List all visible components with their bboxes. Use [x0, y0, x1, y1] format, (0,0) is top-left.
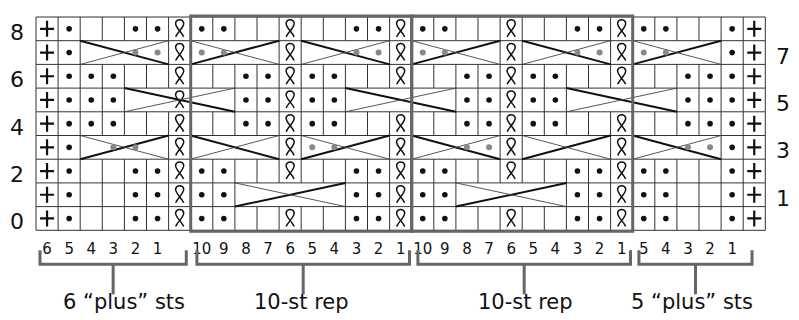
purl-icon — [729, 216, 735, 222]
edge-stitch-icon — [747, 163, 761, 179]
stitch-number: 3 — [109, 240, 119, 258]
purl-icon — [553, 97, 559, 103]
purl-icon — [309, 97, 315, 103]
stitch-number: 2 — [705, 240, 715, 258]
purl-dot-gray-icon — [331, 144, 337, 150]
purl-icon — [221, 168, 227, 174]
purl-icon — [553, 73, 559, 79]
twisted-stitch-icon — [176, 162, 184, 179]
row-label-0: 0 — [10, 211, 24, 233]
purl-dot-gray-icon — [420, 50, 426, 56]
twisted-stitch-icon — [397, 138, 405, 155]
purl-icon — [66, 216, 72, 222]
purl-dot-gray-icon — [685, 144, 691, 150]
purl-icon — [155, 216, 161, 222]
purl-icon — [332, 73, 338, 79]
twisted-stitch-icon — [176, 138, 184, 155]
purl-icon — [707, 121, 713, 127]
purl-icon — [729, 145, 735, 151]
purl-icon — [199, 216, 205, 222]
row-label-8: 8 — [10, 22, 24, 44]
purl-icon — [309, 73, 315, 79]
purl-dot-gray-icon — [663, 50, 669, 56]
purl-icon — [420, 216, 426, 222]
purl-icon — [199, 192, 205, 198]
stitch-number: 9 — [219, 240, 229, 258]
purl-dot-gray-icon — [464, 144, 470, 150]
twisted-stitch-icon — [176, 115, 184, 132]
purl-icon — [66, 26, 72, 32]
purl-icon — [354, 216, 360, 222]
purl-icon — [111, 121, 117, 127]
purl-icon — [575, 26, 581, 32]
twisted-stitch-icon — [397, 67, 405, 84]
stitch-number: 1 — [153, 240, 163, 258]
purl-icon — [486, 97, 492, 103]
twisted-stitch-icon — [507, 67, 515, 84]
purl-dot-gray-icon — [309, 144, 315, 150]
stitch-number: 1 — [617, 240, 627, 258]
purl-icon — [66, 192, 72, 198]
stitch-number: 2 — [595, 240, 605, 258]
purl-icon — [243, 121, 249, 127]
purl-icon — [376, 192, 382, 198]
stitch-number: 3 — [573, 240, 583, 258]
stitch-number: 2 — [374, 240, 384, 258]
twisted-stitch-icon — [286, 20, 294, 37]
edge-stitch-icon — [747, 187, 761, 203]
purl-icon — [597, 216, 603, 222]
stitch-number: 6 — [42, 240, 52, 258]
purl-icon — [376, 168, 382, 174]
edge-stitch-icon — [40, 139, 54, 155]
purl-icon — [221, 26, 227, 32]
twisted-stitch-icon — [507, 20, 515, 37]
twisted-stitch-icon — [286, 138, 294, 155]
stitch-number: 1 — [727, 240, 737, 258]
purl-icon — [376, 26, 382, 32]
purl-icon — [464, 121, 470, 127]
twisted-stitch-icon — [286, 91, 294, 108]
twisted-stitch-icon — [507, 115, 515, 132]
caption-right-plus: 5 “plus” sts — [631, 290, 753, 314]
purl-dot-gray-icon — [376, 50, 382, 56]
stitch-number: 4 — [86, 240, 96, 258]
purl-dot-gray-icon — [199, 50, 205, 56]
twisted-stitch-icon — [507, 209, 515, 226]
purl-icon — [663, 216, 669, 222]
edge-stitch-icon — [40, 163, 54, 179]
purl-icon — [354, 168, 360, 174]
twisted-stitch-icon — [507, 138, 515, 155]
purl-icon — [553, 121, 559, 127]
twisted-stitch-icon — [286, 67, 294, 84]
stitch-number: 7 — [263, 240, 273, 258]
twisted-stitch-icon — [176, 20, 184, 37]
purl-icon — [685, 73, 691, 79]
purl-icon — [420, 26, 426, 32]
purl-icon — [442, 216, 448, 222]
stitch-number: 9 — [440, 240, 450, 258]
edge-stitch-icon — [40, 21, 54, 37]
twisted-stitch-icon — [176, 67, 184, 84]
purl-icon — [530, 73, 536, 79]
stitch-number: 5 — [307, 240, 317, 258]
row-label-5: 5 — [776, 93, 790, 115]
purl-icon — [243, 73, 249, 79]
purl-icon — [221, 216, 227, 222]
purl-dot-gray-icon — [221, 50, 227, 56]
edge-stitch-icon — [40, 187, 54, 203]
twisted-stitch-icon — [397, 186, 405, 203]
purl-icon — [376, 216, 382, 222]
purl-icon — [265, 121, 271, 127]
twisted-stitch-icon — [286, 115, 294, 132]
row-label-7: 7 — [776, 46, 790, 68]
twisted-stitch-icon — [507, 162, 515, 179]
purl-icon — [685, 97, 691, 103]
purl-icon — [685, 121, 691, 127]
purl-icon — [265, 73, 271, 79]
purl-icon — [332, 97, 338, 103]
stitch-number: 4 — [330, 240, 340, 258]
stitch-number: 5 — [528, 240, 538, 258]
purl-icon — [707, 73, 713, 79]
twisted-stitch-icon — [286, 44, 294, 61]
purl-icon — [442, 26, 448, 32]
